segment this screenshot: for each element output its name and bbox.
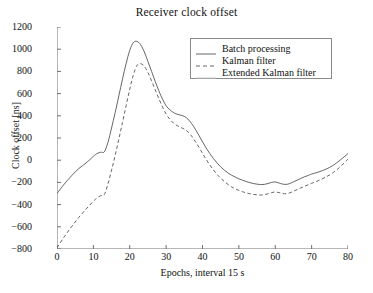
- legend-line-sample: [195, 56, 217, 65]
- legend-rows: Batch processingKalman filterExtended Ka…: [191, 42, 331, 78]
- x-axis-ticks: [57, 245, 348, 249]
- x-tick-label: 0: [42, 252, 72, 262]
- x-tick-label: 60: [260, 252, 290, 262]
- y-axis-label-wrapper: Clock offset [ns]: [6, 27, 24, 249]
- x-tick-label: 10: [78, 252, 108, 262]
- series-line: [57, 64, 348, 248]
- y-tick-label: 0: [27, 155, 32, 165]
- legend-line-sample: [195, 68, 217, 77]
- legend-label: Kalman filter: [222, 55, 276, 66]
- x-axis-label: Epochs, interval 15 s: [57, 267, 348, 278]
- legend[interactable]: Batch processingKalman filterExtended Ka…: [190, 38, 332, 79]
- legend-label: Batch processing: [222, 43, 291, 54]
- y-axis-ticks: [57, 27, 61, 249]
- figure-receiver-clock-offset: Receiver clock offset 120010008006004002…: [0, 0, 373, 293]
- legend-item[interactable]: Kalman filter: [191, 54, 331, 66]
- legend-item[interactable]: Batch processing: [191, 42, 331, 54]
- y-axis-label: Clock offset [ns]: [10, 76, 21, 196]
- x-tick-label: 20: [115, 252, 145, 262]
- chart-title: Receiver clock offset: [0, 6, 373, 18]
- x-tick-label: 30: [151, 252, 181, 262]
- legend-item[interactable]: Extended Kalman filter: [191, 66, 331, 78]
- x-tick-label: 50: [224, 252, 254, 262]
- legend-line-sample: [195, 44, 217, 53]
- legend-label: Extended Kalman filter: [222, 67, 316, 78]
- x-tick-label: 70: [297, 252, 327, 262]
- x-tick-label: 40: [188, 252, 218, 262]
- x-tick-label: 80: [333, 252, 363, 262]
